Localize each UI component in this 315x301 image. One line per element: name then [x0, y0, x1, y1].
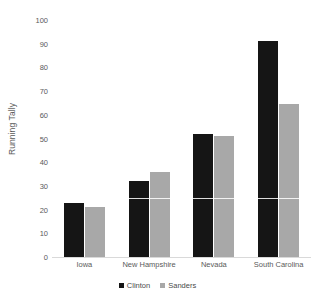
legend-swatch-icon: [160, 283, 165, 288]
legend-swatch-icon: [119, 283, 124, 288]
y-axis-title: Running Tally: [2, 0, 22, 258]
legend-label: Sanders: [168, 281, 196, 290]
bar-sanders-nevada: [214, 136, 234, 257]
legend-label: Clinton: [127, 281, 150, 290]
bar-group: [52, 20, 117, 257]
bar-clinton-nevada: [193, 134, 213, 257]
bar-group: [117, 20, 182, 257]
y-axis-tick-label: 10: [40, 229, 48, 238]
x-axis-category-label: South Carolina: [246, 260, 311, 269]
legend-item-clinton[interactable]: Clinton: [119, 281, 150, 290]
plot-area: [52, 20, 311, 257]
bar-sanders-new-hampshire: [150, 172, 170, 257]
bar-sanders-iowa: [85, 207, 105, 257]
y-axis-tick-label: 90: [40, 39, 48, 48]
bar-clinton-iowa: [64, 203, 84, 258]
bar-clinton-new-hampshire: [129, 181, 149, 257]
x-axis-baseline: [52, 257, 311, 258]
y-axis-tick-label: 100: [35, 16, 48, 25]
x-axis-category-label: Iowa: [52, 260, 117, 269]
y-axis-tick-label: 30: [40, 181, 48, 190]
x-axis-category-labels: IowaNew HampshireNevadaSouth Carolina: [52, 260, 311, 269]
bar-chart: Running Tally 1009080706050403020100 Iow…: [0, 0, 315, 301]
x-axis-category-label: Nevada: [182, 260, 247, 269]
y-axis-tick-label: 70: [40, 87, 48, 96]
y-axis-title-text: Running Tally: [7, 103, 17, 155]
y-axis-tick-label: 60: [40, 110, 48, 119]
bar-group: [182, 20, 247, 257]
bar-sanders-south-carolina: [279, 104, 299, 257]
y-axis-tick-label: 20: [40, 205, 48, 214]
bar-clinton-south-carolina: [258, 41, 278, 257]
y-axis-tick-label: 40: [40, 158, 48, 167]
bar-group: [246, 20, 311, 257]
x-axis-category-label: New Hampshire: [117, 260, 182, 269]
y-axis-tick-label: 0: [44, 253, 48, 262]
bar-groups: [52, 20, 311, 257]
legend-item-sanders[interactable]: Sanders: [160, 281, 196, 290]
y-axis-tick-label: 80: [40, 63, 48, 72]
y-axis-tick-labels: 1009080706050403020100: [20, 0, 52, 301]
y-axis-tick-label: 50: [40, 134, 48, 143]
chart-legend: ClintonSanders: [0, 281, 315, 290]
